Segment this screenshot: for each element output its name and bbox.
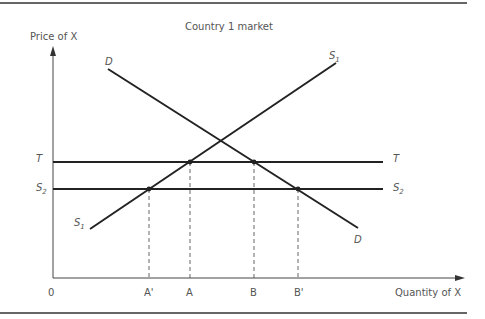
- demand-curve: [108, 69, 358, 228]
- point-a-prime: [147, 187, 152, 192]
- demand-label-bottom: D: [354, 234, 362, 245]
- figure-title: Country 1 market: [185, 21, 273, 32]
- x-axis-arrow-icon: [455, 275, 465, 281]
- tariff-label-right: T: [393, 153, 400, 164]
- supply-label-top: S1: [329, 50, 340, 64]
- tick-b-prime: B': [294, 287, 304, 298]
- x-axis-label: Quantity of X: [395, 287, 461, 298]
- supply-curve: [90, 63, 336, 229]
- tariff-label-left: T: [36, 153, 43, 164]
- world-supply-label-right: S2: [393, 182, 404, 196]
- y-axis-arrow-icon: [50, 46, 56, 56]
- point-b-prime: [296, 187, 301, 192]
- origin-label: 0: [48, 287, 54, 298]
- point-a: [188, 160, 193, 165]
- y-axis-label: Price of X: [30, 31, 77, 42]
- tick-a: A: [186, 287, 193, 298]
- diagram-canvas: Country 1 market Price of X Quantity of …: [0, 0, 485, 319]
- world-supply-label-left: S2: [36, 182, 47, 196]
- demand-label-top: D: [105, 56, 113, 67]
- tick-b: B: [250, 287, 257, 298]
- tick-a-prime: A': [144, 287, 154, 298]
- point-b: [252, 160, 257, 165]
- supply-label-bottom: S1: [74, 217, 85, 231]
